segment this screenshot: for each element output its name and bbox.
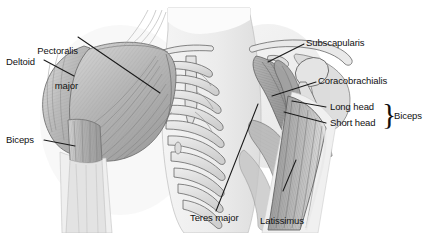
anatomy-figure: Pectoralis major Deltoid Biceps Subscapu… [0, 0, 426, 233]
label-pectoralis-major-line2: major [4, 80, 78, 92]
label-coracobrachialis: Coracobrachialis [318, 75, 387, 87]
label-latissimus-dorsi-line1: Latissimus [248, 215, 316, 227]
label-short-head: Short head [330, 117, 375, 129]
label-teres-major: Teres major [190, 212, 239, 224]
label-latissimus-dorsi: Latissimus dorsi [248, 192, 316, 233]
label-pectoralis-major-line1: Pectoralis [4, 45, 78, 57]
label-pectoralis-major: Pectoralis major [4, 22, 78, 114]
label-long-head: Long head [330, 101, 374, 113]
label-deltoid: Deltoid [6, 56, 35, 68]
label-subscapularis: Subscapularis [306, 37, 364, 49]
label-biceps-brace: Biceps [394, 110, 422, 122]
label-biceps-left: Biceps [6, 134, 34, 146]
